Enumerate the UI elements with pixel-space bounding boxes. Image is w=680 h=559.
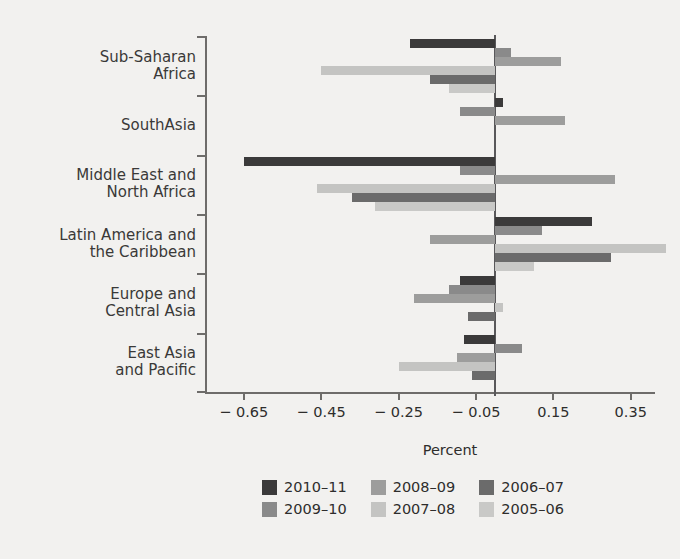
legend-swatch-icon xyxy=(479,502,494,517)
bar xyxy=(495,226,541,235)
bar xyxy=(495,253,611,262)
bar xyxy=(464,335,495,344)
category-label: East Asiaand Pacific xyxy=(16,345,196,379)
category-label: SouthAsia xyxy=(16,117,196,134)
value-tick-label: − 0.45 xyxy=(297,404,346,420)
legend-label: 2006–07 xyxy=(501,479,564,495)
legend-item[interactable]: 2006–07 xyxy=(479,476,582,498)
chart-legend: 2010–112008–092006–072009–102007–082005–… xyxy=(262,476,582,520)
legend-item[interactable]: 2007–08 xyxy=(371,498,474,520)
bar xyxy=(468,312,495,321)
category-label-line: SouthAsia xyxy=(121,116,196,134)
category-label-line: Europe and xyxy=(110,285,196,303)
legend-label: 2005–06 xyxy=(501,501,564,517)
bar xyxy=(495,217,592,226)
legend-swatch-icon xyxy=(479,480,494,495)
category-tick xyxy=(197,155,205,157)
category-label-line: and Pacific xyxy=(115,361,196,379)
category-label-line: the Caribbean xyxy=(90,243,196,261)
bar xyxy=(495,98,503,107)
category-label-line: Middle East and xyxy=(76,166,196,184)
category-tick xyxy=(197,273,205,275)
bar xyxy=(414,294,495,303)
value-tick xyxy=(475,392,477,400)
category-tick xyxy=(197,333,205,335)
legend-label: 2007–08 xyxy=(393,501,456,517)
bar xyxy=(495,175,615,184)
value-tick xyxy=(398,392,400,400)
bar xyxy=(321,66,495,75)
bar xyxy=(495,244,665,253)
legend-item[interactable]: 2005–06 xyxy=(479,498,582,520)
value-tick-label: 0.35 xyxy=(615,404,647,420)
bar xyxy=(460,166,495,175)
category-label-line: Latin America and xyxy=(59,226,196,244)
bar xyxy=(317,184,495,193)
bar xyxy=(472,371,495,380)
bar xyxy=(495,116,565,125)
bar xyxy=(495,344,522,353)
legend-swatch-icon xyxy=(371,502,386,517)
value-tick xyxy=(320,392,322,400)
category-label-line: Africa xyxy=(153,65,196,83)
category-label: Latin America andthe Caribbean xyxy=(16,227,196,261)
bar xyxy=(244,157,496,166)
bar xyxy=(352,193,495,202)
legend-item[interactable]: 2010–11 xyxy=(262,476,365,498)
category-tick xyxy=(197,36,205,38)
legend-swatch-icon xyxy=(262,502,277,517)
bar xyxy=(460,276,495,285)
value-tick-label: − 0.25 xyxy=(374,404,423,420)
category-axis-line xyxy=(205,36,207,392)
category-tick xyxy=(197,214,205,216)
bar xyxy=(457,353,496,362)
category-label: Europe andCentral Asia xyxy=(16,286,196,320)
category-tick xyxy=(197,95,205,97)
bar xyxy=(430,235,496,244)
legend-label: 2009–10 xyxy=(284,501,347,517)
value-tick-label: − 0.65 xyxy=(219,404,268,420)
category-label-line: North Africa xyxy=(106,183,196,201)
bar xyxy=(410,39,495,48)
category-label: Middle East andNorth Africa xyxy=(16,167,196,201)
category-axis-labels: Sub-SaharanAfricaSouthAsiaMiddle East an… xyxy=(10,36,196,392)
bar xyxy=(495,262,534,271)
value-axis-line xyxy=(205,392,655,394)
bar xyxy=(460,107,495,116)
value-tick-label: 0.15 xyxy=(537,404,569,420)
category-label-line: East Asia xyxy=(127,344,196,362)
category-label: Sub-SaharanAfrica xyxy=(16,49,196,83)
bar xyxy=(495,57,561,66)
bar xyxy=(449,285,495,294)
plot-area: − 0.65− 0.45− 0.25− 0.050.150.35 Percent xyxy=(205,36,654,392)
legend-label: 2008–09 xyxy=(393,479,456,495)
bar xyxy=(430,75,496,84)
legend-swatch-icon xyxy=(262,480,277,495)
value-tick-label: − 0.05 xyxy=(451,404,500,420)
bar xyxy=(399,362,496,371)
legend-swatch-icon xyxy=(371,480,386,495)
legend-item[interactable]: 2009–10 xyxy=(262,498,365,520)
value-tick xyxy=(630,392,632,400)
category-label-line: Sub-Saharan xyxy=(100,48,196,66)
category-label-line: Central Asia xyxy=(105,302,196,320)
value-tick xyxy=(552,392,554,400)
x-axis-title: Percent xyxy=(205,442,680,458)
value-tick xyxy=(243,392,245,400)
legend-item[interactable]: 2008–09 xyxy=(371,476,474,498)
bar xyxy=(495,303,503,312)
category-tick xyxy=(197,391,205,393)
bar xyxy=(375,202,495,211)
bar xyxy=(495,48,510,57)
chart-figure: Sub-SaharanAfricaSouthAsiaMiddle East an… xyxy=(0,0,680,559)
bar xyxy=(449,84,495,93)
legend-label: 2010–11 xyxy=(284,479,347,495)
